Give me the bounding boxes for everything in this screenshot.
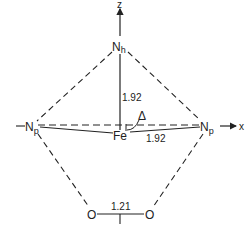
dashed-edge-nh-npleft bbox=[37, 52, 112, 121]
atom-n-p-right: Np bbox=[200, 120, 214, 136]
atom-o-right: O bbox=[145, 208, 154, 222]
fe-complex-diagram: z Nh 1.92 Np Np x Fe Δ 1.92 O O 1.21 bbox=[0, 0, 250, 238]
dashed-edge-npright-oright bbox=[153, 134, 203, 207]
atom-o-left: O bbox=[87, 208, 96, 222]
atom-n-h: Nh bbox=[112, 40, 126, 55]
fe-nh-distance: 1.92 bbox=[122, 92, 142, 103]
z-axis-label: z bbox=[117, 0, 122, 10]
x-axis-label: x bbox=[239, 121, 244, 132]
fe-np-right-bond bbox=[130, 127, 200, 132]
fe-np-distance: 1.92 bbox=[146, 133, 166, 144]
dashed-edge-npleft-oleft bbox=[38, 134, 89, 207]
atom-fe: Fe bbox=[113, 129, 127, 143]
atom-n-p-left: Np bbox=[25, 120, 39, 136]
o-o-distance: 1.21 bbox=[111, 201, 131, 212]
displacement-label: Δ bbox=[138, 109, 146, 123]
fe-np-left-bond bbox=[40, 127, 113, 133]
